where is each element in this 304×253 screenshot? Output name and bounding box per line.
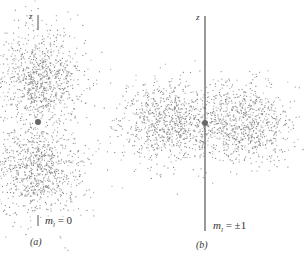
ml-label-b: ml = ±1 bbox=[213, 219, 246, 234]
nucleus-b bbox=[202, 120, 208, 126]
z-axis-label-a: z bbox=[29, 11, 33, 21]
z-axis-label-b: z bbox=[196, 12, 200, 22]
nucleus-a bbox=[35, 119, 41, 125]
caption-a: (a) bbox=[30, 236, 42, 247]
caption-b: (b) bbox=[196, 239, 208, 250]
ml-label-a: ml = 0 bbox=[45, 214, 72, 229]
probability-cloud-b bbox=[86, 60, 304, 195]
